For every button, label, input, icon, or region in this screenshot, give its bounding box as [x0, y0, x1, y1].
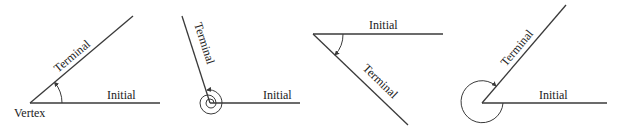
- terminal-label: Terminal: [191, 21, 218, 67]
- rotation-arc-icon: [461, 81, 503, 123]
- spiral-arc-icon: [200, 90, 222, 114]
- diagram-negative-clockwise: Initial Terminal: [313, 18, 443, 125]
- initial-label: Initial: [539, 88, 568, 102]
- terminal-side: [313, 34, 408, 125]
- diagram-multi-revolution: Initial Terminal: [182, 16, 300, 114]
- initial-label: Initial: [107, 88, 136, 102]
- terminal-label: Terminal: [360, 61, 401, 102]
- initial-label: Initial: [369, 18, 398, 32]
- rotation-arc-icon: [335, 34, 343, 55]
- rotation-arc-icon: [55, 82, 63, 103]
- diagram-acute-positive: Initial Terminal Vertex: [14, 16, 160, 120]
- vertex-label: Vertex: [14, 106, 45, 120]
- angle-diagrams: Initial Terminal Vertex Initial Terminal…: [0, 0, 620, 130]
- initial-label: Initial: [263, 88, 292, 102]
- terminal-label: Terminal: [51, 36, 94, 75]
- diagram-reflex-angle: Initial Terminal: [461, 5, 607, 123]
